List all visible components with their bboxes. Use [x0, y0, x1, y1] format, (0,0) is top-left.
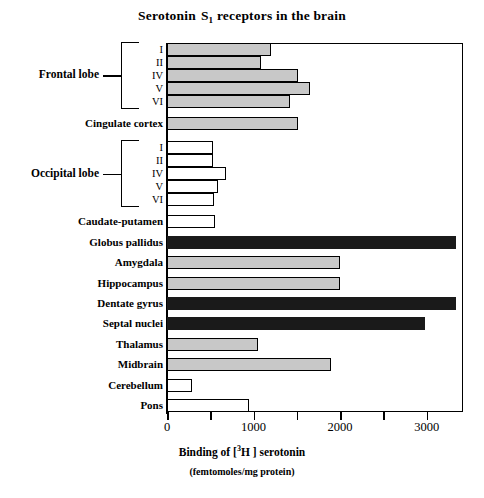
row-label-pons: Pons [0, 399, 163, 412]
bar-thalamus[interactable] [167, 338, 258, 351]
row-label-cerebellum: Cerebellum [0, 379, 163, 392]
bar-vi[interactable] [167, 95, 290, 108]
bar-pons[interactable] [167, 399, 249, 412]
x-axis-tick [254, 412, 256, 420]
x-axis-title-suffix: ] serotonin [253, 446, 306, 458]
bar-row [167, 154, 463, 167]
bar-row [167, 277, 463, 290]
x-axis-tick [210, 412, 212, 420]
x-axis-tick-label: 0 [137, 420, 197, 435]
bar-iv[interactable] [167, 69, 298, 82]
bar-i[interactable] [167, 141, 213, 154]
bar-dentate-gyrus[interactable] [167, 297, 456, 310]
group-bracket [121, 140, 139, 207]
bar-v[interactable] [167, 180, 218, 193]
bar-row [167, 193, 463, 206]
bar-row [167, 317, 463, 330]
bar-row [167, 167, 463, 180]
x-axis-units: (femtomoles/mg protein) [0, 466, 484, 477]
bar-iv[interactable] [167, 167, 226, 180]
row-label-caudate-putamen: Caudate-putamen [0, 215, 163, 228]
bar-row [167, 236, 463, 249]
row-label-cingulate-cortex: Cingulate cortex [0, 117, 163, 130]
row-label-dentate-gyrus: Dentate gyrus [0, 297, 163, 310]
x-axis-tick-label: 3000 [397, 420, 457, 435]
bar-i[interactable] [167, 43, 271, 56]
bar-ii[interactable] [167, 56, 261, 69]
bar-septal-nuclei[interactable] [167, 317, 425, 330]
row-label-thalamus: Thalamus [0, 338, 163, 351]
chart-title-subscript: 1 [209, 15, 214, 25]
bar-row [167, 399, 463, 412]
bar-row [167, 256, 463, 269]
bar-cerebellum[interactable] [167, 379, 192, 392]
chart-title: SerotoninS1 receptors in the brain [0, 8, 484, 25]
bar-row [167, 358, 463, 371]
bar-v[interactable] [167, 82, 310, 95]
bar-cingulate-cortex[interactable] [167, 117, 298, 130]
x-axis-tick [383, 412, 385, 420]
bar-midbrain[interactable] [167, 358, 331, 371]
chart-title-main: Serotonin [138, 8, 196, 23]
bar-ii[interactable] [167, 154, 213, 167]
group-label-occipital-lobe: Occipital lobe [0, 167, 99, 179]
bar-row [167, 43, 463, 56]
row-label-roman: V [137, 180, 163, 193]
row-label-roman: VI [137, 193, 163, 206]
row-label-roman: V [137, 82, 163, 95]
bar-caudate-putamen[interactable] [167, 215, 215, 228]
bar-row [167, 69, 463, 82]
bar-amygdala[interactable] [167, 256, 340, 269]
bars-layer [167, 43, 463, 412]
bar-row [167, 180, 463, 193]
row-label-globus-pallidus: Globus pallidus [0, 236, 163, 249]
row-label-roman: II [137, 56, 163, 69]
bar-row [167, 141, 463, 154]
chart-title-rest: receptors in the brain [217, 8, 346, 23]
bar-vi[interactable] [167, 193, 214, 206]
row-label-hippocampus: Hippocampus [0, 277, 163, 290]
group-label-frontal-lobe: Frontal lobe [0, 68, 99, 80]
bar-row [167, 56, 463, 69]
bar-globus-pallidus[interactable] [167, 236, 456, 249]
x-axis-title-prefix: Binding of [ [179, 446, 237, 458]
x-axis-tick [427, 412, 429, 420]
row-label-roman: IV [137, 69, 163, 82]
bar-row [167, 117, 463, 130]
x-axis-tick-label: 1000 [224, 420, 284, 435]
bar-row [167, 215, 463, 228]
x-axis-tick [297, 412, 299, 420]
chart-root: SerotoninS1 receptors in the brain IIIIV… [0, 0, 484, 498]
row-label-roman: VI [137, 95, 163, 108]
x-axis-tick [340, 412, 342, 420]
row-label-roman: IV [137, 167, 163, 180]
x-axis-tick [167, 412, 169, 420]
bar-row [167, 95, 463, 108]
bar-row [167, 82, 463, 95]
bar-row [167, 338, 463, 351]
x-axis-title-isotope: H [241, 446, 250, 458]
chart-title-symbol: S [201, 8, 209, 23]
group-bracket-stem [103, 174, 121, 176]
bar-row [167, 297, 463, 310]
bar-hippocampus[interactable] [167, 277, 340, 290]
row-label-amygdala: Amygdala [0, 256, 163, 269]
row-label-septal-nuclei: Septal nuclei [0, 317, 163, 330]
bar-row [167, 379, 463, 392]
group-bracket-stem [103, 75, 121, 77]
row-label-midbrain: Midbrain [0, 358, 163, 371]
x-axis-tick-label: 2000 [310, 420, 370, 435]
x-axis-title: Binding of [3H ] serotonin [0, 444, 484, 458]
row-label-roman: I [137, 43, 163, 56]
row-label-roman: I [137, 141, 163, 154]
row-label-roman: II [137, 154, 163, 167]
group-bracket [121, 42, 139, 109]
